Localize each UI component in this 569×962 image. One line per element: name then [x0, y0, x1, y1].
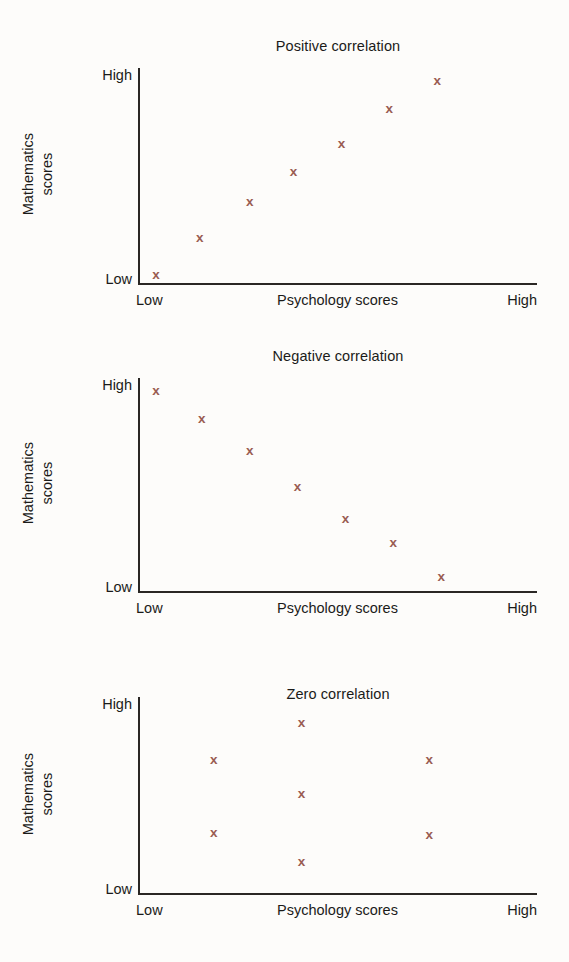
- y-axis-high-label-3: High: [52, 697, 132, 712]
- plot-area-3: xxxxxxx: [138, 697, 537, 893]
- figure-canvas: Positive correlation High Low Mathematic…: [0, 0, 569, 962]
- y-axis-low-label-3: Low: [52, 882, 132, 897]
- x-axis-high-label-3: High: [437, 903, 537, 918]
- y-axis-title-line1-3: Mathematics: [19, 704, 38, 884]
- data-point: x: [295, 787, 308, 800]
- x-axis-line-3: [138, 893, 537, 895]
- y-axis-title-line2-3: scores: [38, 704, 57, 884]
- data-point: x: [207, 826, 220, 839]
- chart-zero-correlation: Zero correlation High Low Mathematics sc…: [0, 0, 569, 930]
- y-axis-title-3: Mathematics scores: [19, 704, 57, 884]
- data-point: x: [423, 753, 436, 766]
- data-point: x: [295, 855, 308, 868]
- data-point: x: [295, 716, 308, 729]
- data-point: x: [423, 828, 436, 841]
- data-point: x: [207, 753, 220, 766]
